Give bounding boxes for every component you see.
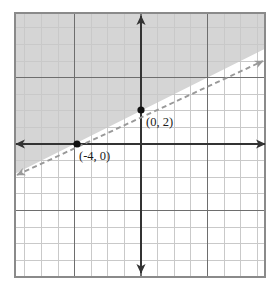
point-label: (-4, 0) [79,149,110,163]
marked-point-dot [137,106,144,113]
point-label: (0, 2) [146,115,173,129]
coordinate-plane-figure: (0, 2)(-4, 0) [0,0,280,289]
graph-canvas: (0, 2)(-4, 0) [0,0,280,289]
marked-point-dot [73,140,80,147]
